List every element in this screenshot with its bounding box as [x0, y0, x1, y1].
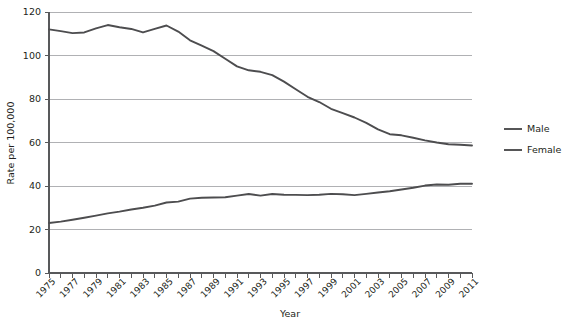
x-axis-tick-labels: 1975197719791981198319851987198919911993…	[34, 276, 480, 299]
data-series	[49, 25, 472, 223]
y-axis-tick-label: 80	[29, 93, 41, 104]
legend-label-female: Female	[527, 144, 562, 155]
x-axis-tick-label: 1995	[269, 276, 292, 299]
x-axis-tick-label: 2005	[387, 276, 410, 299]
x-axis-tick-label: 2003	[363, 276, 386, 299]
x-axis-title: Year	[279, 308, 300, 319]
x-axis-tick-label: 1981	[105, 276, 128, 299]
x-axis-tick-label: 2001	[340, 276, 363, 299]
y-axis-tick-label: 120	[23, 6, 41, 17]
chart-canvas: 020406080100120 197519771979198119831985…	[0, 0, 563, 328]
series-line-male	[49, 25, 472, 146]
x-axis-tick-label: 2011	[457, 276, 480, 299]
x-axis-tick-label: 2009	[434, 276, 457, 299]
series-line-female	[49, 184, 472, 223]
y-axis-title: Rate per 100,000	[5, 102, 16, 185]
x-axis-tick-label: 1997	[293, 276, 316, 299]
x-axis-tick-label: 1977	[58, 276, 81, 299]
x-axis-tick-label: 1989	[199, 276, 222, 299]
x-axis-tick-label: 1983	[128, 276, 151, 299]
x-axis-tick-label: 1979	[81, 276, 104, 299]
gridlines	[45, 12, 472, 273]
x-axis-tick-label: 1993	[246, 276, 269, 299]
y-axis-tick-label: 100	[23, 50, 41, 61]
x-axis-tick-label: 1987	[175, 276, 198, 299]
x-axis-tick-label: 1975	[34, 276, 57, 299]
y-axis-tick-label: 40	[29, 180, 41, 191]
y-axis-tick-label: 60	[29, 137, 41, 148]
x-axis-tick-label: 1991	[222, 276, 245, 299]
legend: MaleFemale	[504, 123, 562, 155]
x-axis-tick-label: 2007	[410, 276, 433, 299]
y-axis-tick-label: 0	[35, 267, 41, 278]
y-axis-tick-labels: 020406080100120	[23, 6, 41, 278]
legend-label-male: Male	[527, 123, 550, 134]
x-axis-tick-label: 1985	[152, 276, 175, 299]
line-chart: 020406080100120 197519771979198119831985…	[0, 0, 563, 328]
y-axis-tick-label: 20	[29, 224, 41, 235]
x-axis-tick-label: 1999	[316, 276, 339, 299]
